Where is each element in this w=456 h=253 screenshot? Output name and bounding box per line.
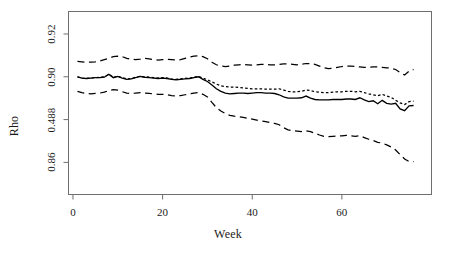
solid-estimate-series — [77, 74, 413, 110]
lower-confidence-band — [77, 90, 413, 162]
y-tick-label: 0.488 — [45, 107, 57, 132]
chart-figure: Rho Week 0.920.900.4880.86 0204060 — [0, 0, 456, 253]
y-tick-label: 0.92 — [45, 24, 57, 43]
x-tick-label: 20 — [157, 206, 168, 218]
data-series-lines — [77, 56, 413, 162]
x-tick-label: 0 — [70, 206, 76, 218]
x-tick-label: 60 — [336, 206, 347, 218]
y-tick-label: 0.90 — [45, 67, 57, 86]
y-axis-title: Rho — [7, 116, 22, 137]
x-axis-title: Week — [214, 227, 242, 242]
chart-plot-area — [0, 0, 456, 253]
upper-confidence-band — [77, 56, 413, 75]
y-tick-label: 0.86 — [45, 153, 57, 172]
x-tick-label: 40 — [247, 206, 258, 218]
